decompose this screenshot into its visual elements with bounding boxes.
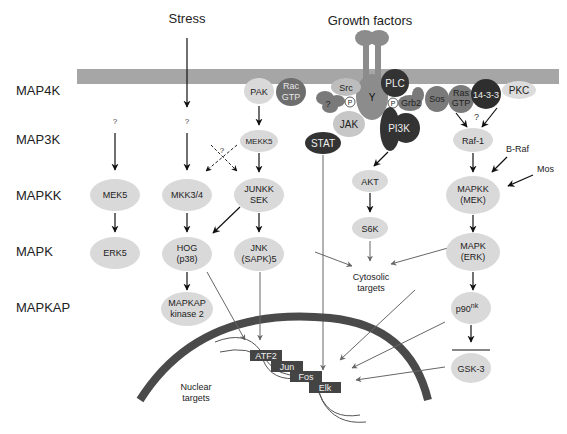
transcription-factor-atf2: ATF2 — [250, 350, 282, 361]
svg-text:JAK: JAK — [340, 119, 359, 130]
arrow-braf-to-mek — [492, 157, 507, 172]
dna-strand-2 — [220, 350, 366, 423]
transcription-factor-elk: Elk — [309, 382, 341, 393]
rac-gtp-node: Rac GTP — [276, 78, 306, 106]
arrow-junkk-to-hog — [213, 207, 240, 233]
svg-text:kinase 2: kinase 2 — [170, 309, 204, 319]
svg-text:Rac: Rac — [283, 81, 300, 91]
svg-text:STAT: STAT — [311, 138, 335, 149]
svg-text:ATF2: ATF2 — [255, 351, 276, 361]
svg-text:(SAPK)5: (SAPK)5 — [241, 254, 276, 264]
svg-text:(ERK): (ERK) — [461, 252, 486, 262]
svg-text:AKT: AKT — [361, 177, 379, 187]
hog-p38-node: HOG (p38) — [162, 237, 212, 271]
svg-text:PI3K: PI3K — [388, 123, 410, 134]
level-label-map4k: MAP4K — [16, 83, 60, 98]
cytosolic-targets-line1: Cytosolic — [353, 272, 390, 282]
svg-text:JNK: JNK — [250, 243, 267, 253]
mos-label: Mos — [537, 164, 555, 174]
svg-text:ERK5: ERK5 — [103, 248, 127, 258]
svg-text:S6K: S6K — [361, 224, 378, 234]
svg-text:Elk: Elk — [319, 383, 332, 393]
svg-text:Fos: Fos — [298, 372, 314, 382]
svg-text:GSK-3: GSK-3 — [457, 364, 484, 374]
level-labels: MAP4K MAP3K MAPKK MAPK MAPKAP — [16, 83, 70, 315]
gsk3-node: GSK-3 — [451, 353, 491, 383]
level-label-mapkk: MAPKK — [16, 188, 62, 203]
growth-factors-label: Growth factors — [328, 13, 413, 28]
svg-text:PKC: PKC — [509, 85, 530, 96]
mapkk-mek-node: MAPKK (MEK) — [446, 176, 500, 214]
svg-text:PAK: PAK — [250, 87, 267, 97]
arrow-jnk-to-cytosolic — [315, 252, 352, 266]
svg-text:Jun: Jun — [280, 362, 295, 372]
svg-text:Raf-1: Raf-1 — [462, 136, 484, 146]
receptor-y-label: Y — [369, 92, 376, 103]
jak-node: JAK — [333, 111, 365, 137]
nuclear-targets-line1: Nuclear — [180, 382, 211, 392]
mapk-erk-node: MAPK (ERK) — [446, 233, 500, 271]
protein-14-3-3-node: 14-3-3 — [471, 79, 501, 109]
akt-node: AKT — [352, 170, 388, 192]
mapkap-kinase2-node: MAPKAP kinase 2 — [161, 292, 213, 326]
phospho-p1: P — [345, 97, 355, 107]
arrow-ras-to-raf — [456, 113, 467, 127]
pak-node: PAK — [244, 78, 274, 104]
phospho-p2: P — [388, 98, 398, 108]
svg-text:MEKK5: MEKK5 — [245, 137, 273, 146]
src-node: Src — [331, 78, 361, 96]
transcription-factor-jun: Jun — [271, 361, 303, 372]
svg-text:(p38): (p38) — [176, 254, 197, 264]
level-label-mapkap: MAPKAP — [16, 300, 70, 315]
arrow-pi3k-to-akt — [374, 152, 388, 166]
arrow-erk-to-cytosolic — [391, 246, 455, 264]
svg-text:MKK3/4: MKK3/4 — [171, 190, 203, 200]
stress-label: Stress — [169, 11, 206, 26]
svg-text:MAPKAP: MAPKAP — [168, 298, 206, 308]
arrow-gsk3-to-nucleus — [356, 367, 445, 380]
svg-text:SEK: SEK — [250, 195, 268, 205]
svg-text:(MEK): (MEK) — [460, 195, 486, 205]
arrow-mos-to-mek — [508, 175, 533, 186]
svg-text:HOG: HOG — [177, 243, 198, 253]
ras-question-label: ? — [474, 112, 479, 122]
plc-node: PLC — [381, 69, 409, 97]
svg-text:Ras: Ras — [453, 88, 470, 98]
level-label-mapk: MAPK — [16, 244, 53, 259]
svg-text:P: P — [348, 99, 353, 106]
ras-gtp-node: Ras GTP — [448, 85, 474, 113]
svg-text:PLC: PLC — [385, 78, 404, 89]
svg-text:GTP: GTP — [282, 92, 301, 102]
junkk-sek-node: JUNKK SEK — [234, 178, 284, 212]
level-label-map3k: MAP3K — [16, 132, 60, 147]
transcription-factor-fos: Fos — [290, 371, 322, 382]
svg-text:MAPKK: MAPKK — [457, 184, 489, 194]
svg-text:Src: Src — [339, 83, 353, 93]
svg-text:Grb2: Grb2 — [401, 98, 421, 108]
cytosolic-targets-line2: targets — [357, 283, 385, 293]
svg-text:MEK5: MEK5 — [103, 190, 128, 200]
mapk-signaling-diagram: MAP4K MAP3K MAPKK MAPK MAPKAP Stress Gro… — [0, 0, 567, 434]
erk5-node: ERK5 — [90, 237, 140, 269]
svg-text:P: P — [391, 100, 396, 107]
sos-node: Sos — [425, 86, 449, 112]
svg-text:GTP: GTP — [452, 98, 471, 108]
svg-text:Sos: Sos — [429, 94, 445, 104]
svg-text:?: ? — [325, 99, 330, 109]
svg-text:14-3-3: 14-3-3 — [473, 90, 499, 100]
svg-text:JUNKK: JUNKK — [244, 184, 274, 194]
cross-question: ? — [220, 146, 225, 155]
s6k-node: S6K — [352, 217, 388, 239]
pi3k-node: PI3K — [380, 107, 420, 151]
pkc-node: PKC — [502, 81, 536, 99]
erk5-question: ? — [113, 117, 118, 126]
raf1-node: Raf-1 — [453, 128, 493, 152]
dna-strand-1 — [215, 338, 360, 416]
mekk5-node: MEKK5 — [240, 130, 278, 152]
stat-node: STAT — [305, 132, 341, 154]
p90rsk-node: p90nk — [451, 292, 491, 324]
mkk34-node: MKK3/4 — [162, 179, 212, 211]
jnk-sapk-node: JNK (SAPK)5 — [234, 237, 284, 271]
braf-label: B-Raf — [506, 144, 530, 154]
mek5-node: MEK5 — [90, 179, 140, 211]
